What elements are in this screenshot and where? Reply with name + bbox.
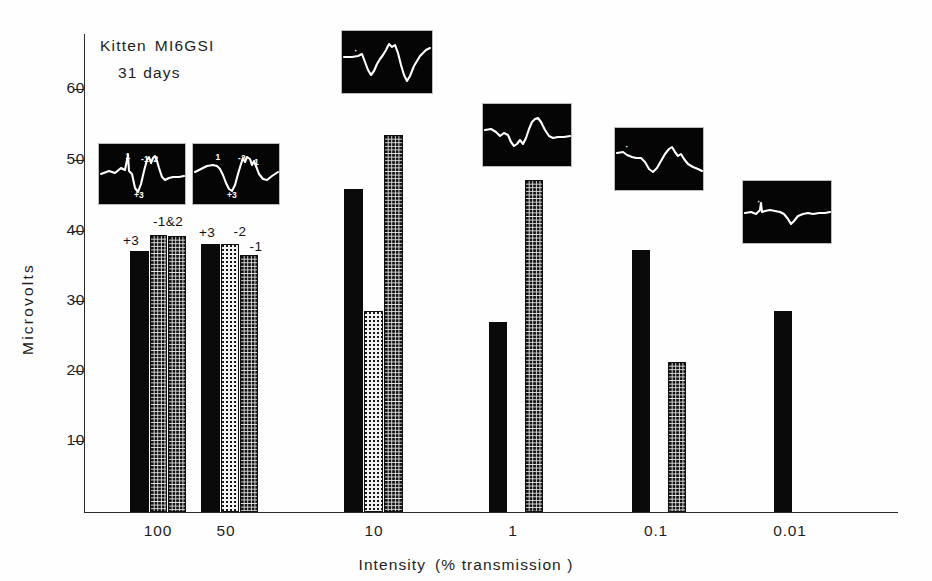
chart-bar bbox=[150, 235, 167, 512]
y-axis-title: Microvolts bbox=[19, 229, 37, 389]
waveform-component-label: -1 bbox=[141, 154, 149, 164]
y-axis-tick-label: 40 bbox=[43, 221, 85, 239]
waveform-component-label: 2 bbox=[154, 154, 159, 164]
chart-bar bbox=[774, 311, 792, 512]
chart-bar bbox=[201, 244, 220, 512]
bar-value-annotation: +3 bbox=[123, 233, 139, 248]
waveform-trace-svg bbox=[743, 181, 831, 243]
waveform-trace-svg bbox=[342, 31, 432, 93]
bar-value-annotation: +3 bbox=[199, 225, 215, 240]
waveform-component-label: · bbox=[354, 46, 357, 56]
x-axis-tick-label: 0.1 bbox=[644, 522, 668, 540]
chart-bar bbox=[668, 362, 686, 512]
waveform-component-label: +3 bbox=[134, 190, 144, 200]
chart-bar bbox=[525, 180, 543, 512]
waveform-component-label: -2 bbox=[238, 153, 246, 163]
chart-bar bbox=[168, 236, 186, 512]
y-axis-tick-label: 60 bbox=[43, 79, 85, 97]
bar-value-annotation: -2 bbox=[234, 224, 247, 239]
waveform-inset: · bbox=[341, 30, 433, 94]
x-axis-line bbox=[84, 512, 898, 513]
x-axis-tick-label: 1 bbox=[508, 522, 517, 540]
chart-bar bbox=[344, 189, 363, 512]
chart-bar bbox=[384, 135, 403, 512]
y-axis-tick-label: 30 bbox=[43, 291, 85, 309]
chart-bar bbox=[240, 255, 258, 512]
x-axis-title-part1: Intensity bbox=[358, 556, 426, 573]
chart-bar bbox=[489, 322, 507, 512]
x-axis-title-part2: (% transmission ) bbox=[435, 556, 573, 573]
waveform-trace-path bbox=[485, 118, 570, 146]
caption-line-age: 31 days bbox=[100, 59, 215, 86]
caption-subject-species: Kitten bbox=[100, 37, 147, 54]
chart-figure: 605040302010 Microvolts 100501010.10.01 … bbox=[0, 0, 932, 581]
waveform-inset bbox=[482, 103, 572, 167]
caption-line-subject: KittenMI6GSI bbox=[100, 37, 215, 54]
y-axis-tick-label: 50 bbox=[43, 150, 85, 168]
x-axis-tick-label: 50 bbox=[217, 522, 236, 540]
waveform-component-label: 1 bbox=[126, 151, 131, 161]
waveform-trace-path bbox=[617, 147, 702, 172]
waveform-inset: · bbox=[614, 127, 704, 191]
chart-caption: KittenMI6GSI 31 days bbox=[100, 32, 215, 86]
waveform-component-label: -1 bbox=[251, 157, 259, 167]
chart-bar bbox=[364, 311, 383, 512]
y-axis-tick-label: 10 bbox=[43, 431, 85, 449]
waveform-trace-svg bbox=[615, 128, 703, 190]
bar-value-annotation: -1&2 bbox=[153, 214, 183, 229]
x-axis-tick-label: 0.01 bbox=[773, 522, 806, 540]
chart-bar bbox=[221, 244, 239, 512]
waveform-component-label: +3 bbox=[227, 190, 237, 200]
chart-bar bbox=[632, 250, 650, 512]
waveform-inset: 1-2-1+3 bbox=[192, 143, 280, 205]
x-axis-tick-label: 10 bbox=[365, 522, 384, 540]
waveform-component-label: 1 bbox=[216, 152, 221, 162]
x-axis-tick-label: 100 bbox=[144, 522, 172, 540]
waveform-component-label: · bbox=[757, 197, 760, 207]
chart-bar bbox=[130, 251, 149, 512]
waveform-component-label: · bbox=[625, 142, 628, 152]
waveform-inset: · bbox=[742, 180, 832, 244]
caption-subject-id: MI6GSI bbox=[155, 37, 215, 54]
waveform-trace-path bbox=[195, 157, 278, 191]
x-axis-title: Intensity(% transmission ) bbox=[0, 556, 932, 574]
y-axis-tick-label: 20 bbox=[43, 361, 85, 379]
bar-value-annotation: -1 bbox=[250, 239, 263, 254]
waveform-inset: 1-12+3 bbox=[98, 143, 186, 205]
waveform-trace-svg bbox=[483, 104, 571, 166]
